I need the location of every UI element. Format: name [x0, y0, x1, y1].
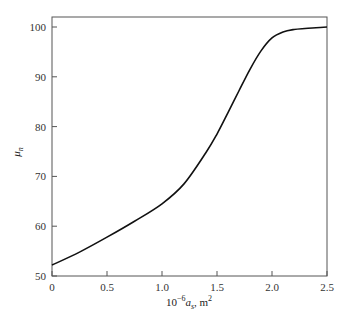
y-tick-label: 90 — [35, 71, 47, 83]
x-tick-label: 1.5 — [210, 281, 224, 293]
y-tick-label: 80 — [35, 121, 47, 133]
x-tick-label: 2.0 — [265, 281, 279, 293]
y-tick-label: 50 — [35, 270, 47, 282]
x-tick-label: 0.5 — [100, 281, 114, 293]
x-tick-label: 0 — [49, 281, 55, 293]
y-tick-label: 70 — [35, 170, 47, 182]
chart: 5060708090100 00.51.01.52.02.5 μn 10−6as… — [0, 0, 351, 324]
y-axis-label: μn — [10, 147, 25, 158]
x-axis-ticks: 00.51.01.52.02.5 — [49, 271, 334, 293]
x-axis-label: 10−6as, m2 — [166, 294, 212, 311]
x-tick-label: 1.0 — [155, 281, 169, 293]
y-axis-ticks: 5060708090100 — [30, 21, 58, 282]
plot-frame — [52, 17, 327, 276]
y-tick-label: 60 — [35, 220, 47, 232]
data-line — [52, 27, 327, 265]
x-tick-label: 2.5 — [320, 281, 334, 293]
y-tick-label: 100 — [30, 21, 47, 33]
